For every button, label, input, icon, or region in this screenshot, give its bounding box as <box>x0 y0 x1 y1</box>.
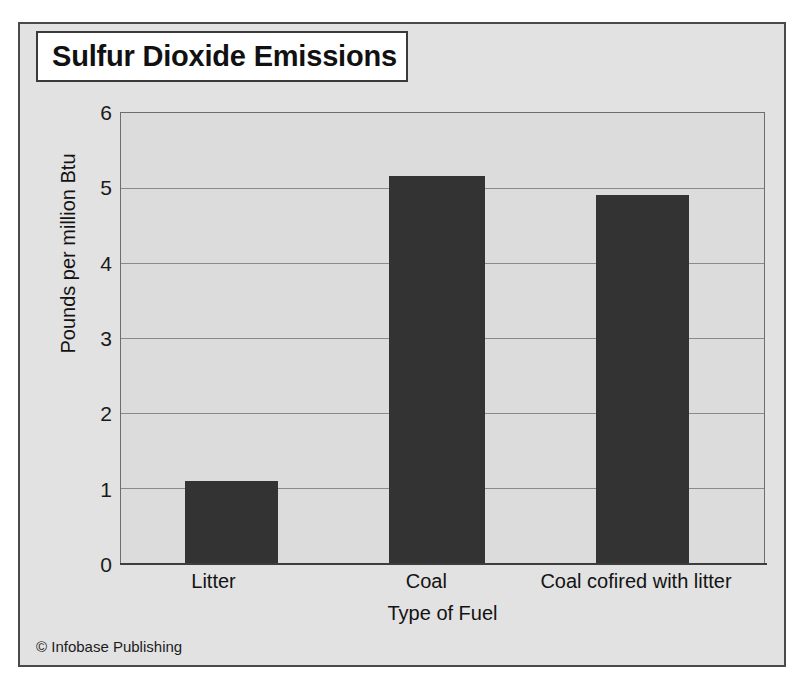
y-tick-4: 4 <box>84 252 112 273</box>
y-tick-5: 5 <box>84 177 112 198</box>
page-title: Sulfur Dioxide Emissions <box>52 40 397 73</box>
bar-litter <box>185 481 278 564</box>
figure-frame: Sulfur Dioxide Emissions 6 5 4 3 2 1 0 P… <box>18 22 786 667</box>
y-tick-6: 6 <box>84 102 112 123</box>
bar-coal <box>389 176 485 563</box>
x-tick-label-coal-cofired: Coal cofired with litter <box>540 570 731 593</box>
y-tick-2: 2 <box>84 403 112 424</box>
chart-title-box: Sulfur Dioxide Emissions <box>36 31 408 82</box>
y-tick-0: 0 <box>84 554 112 575</box>
copyright-credit: © Infobase Publishing <box>36 638 182 655</box>
x-axis-line <box>120 563 767 565</box>
y-tick-1: 1 <box>84 478 112 499</box>
x-tick-label-litter: Litter <box>191 570 235 593</box>
y-axis-title: Pounds per million Btu <box>57 104 80 404</box>
x-tick-label-coal: Coal <box>406 570 447 593</box>
x-axis-title: Type of Fuel <box>120 602 765 625</box>
bar-coal-cofired-with-litter <box>596 195 690 563</box>
y-tick-3: 3 <box>84 328 112 349</box>
x-axis-ticks: Litter Coal Coal cofired with litter <box>120 570 765 600</box>
plot-area <box>120 112 765 564</box>
